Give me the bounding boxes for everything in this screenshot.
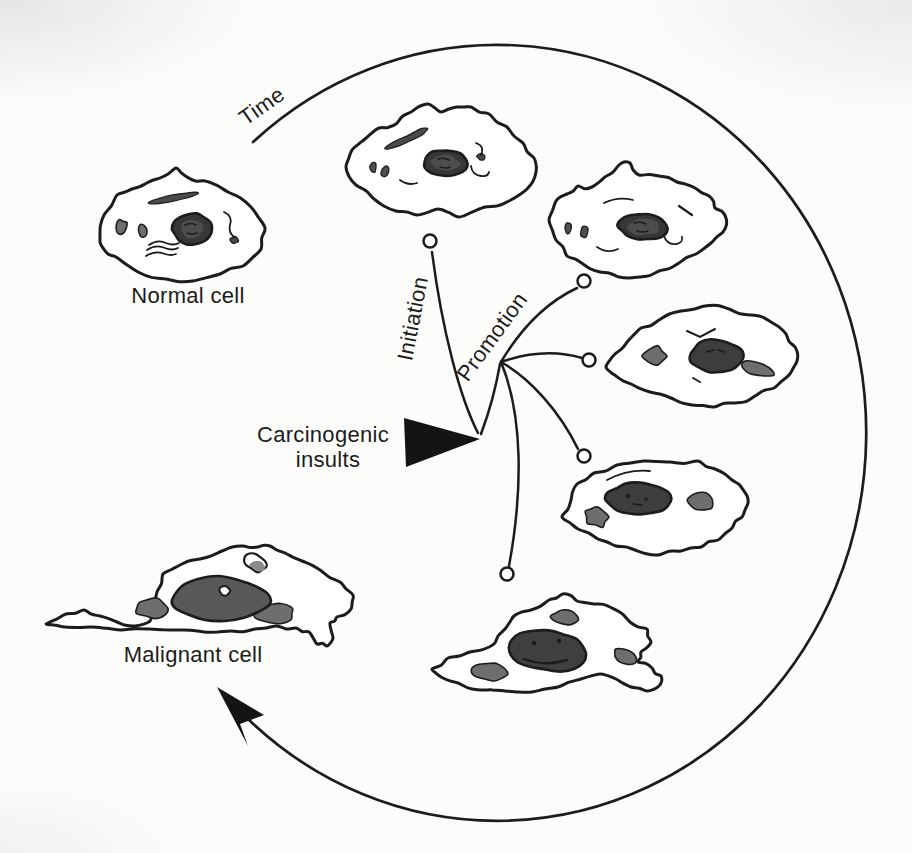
promotion-stem-curve — [481, 364, 500, 434]
promotion-curve-4 — [501, 362, 519, 566]
promotion-node-3 — [578, 450, 591, 463]
promotion-node-2 — [583, 354, 596, 367]
cell-malignant — [46, 545, 353, 646]
normal-cell-label: Normal cell — [131, 283, 244, 308]
carcinogenesis-diagram: Time Initiation Promotion Carcinogenic i… — [0, 0, 912, 853]
cell-promoted-1 — [549, 162, 727, 278]
promotion-curve-2 — [501, 353, 582, 362]
carcinogenesis-figure: Time Initiation Promotion Carcinogenic i… — [0, 0, 912, 853]
cell-promoted-3 — [562, 461, 748, 555]
carcinogenic-insults-label-line2: insults — [296, 447, 360, 472]
cell-organelle — [565, 223, 572, 234]
promotion-label: Promotion — [452, 288, 533, 386]
cell-normal — [100, 168, 265, 282]
time-label: Time — [234, 81, 289, 130]
cell-promoted-2 — [606, 305, 798, 407]
cell-nucleolus-dot — [644, 497, 648, 501]
initiation-node — [424, 235, 437, 248]
cell-organelle — [370, 162, 376, 172]
cell-organelle — [581, 226, 588, 238]
cell-initiated — [346, 104, 536, 217]
initiation-label: Initiation — [392, 274, 433, 362]
carcinogenic-insults-arrowhead — [404, 418, 480, 467]
cell-nucleolus-dot — [532, 641, 536, 645]
cell-detail-line — [633, 504, 642, 505]
malignant-cell-label: Malignant cell — [124, 642, 263, 667]
cell-nucleolus-dot — [626, 494, 630, 498]
cell-organelle — [138, 224, 147, 237]
cell-nucleolus-dot — [557, 639, 561, 643]
carcinogenic-insults-label-line1: Carcinogenic — [257, 422, 389, 447]
promotion-node-4 — [501, 568, 514, 581]
cell-nucleolus — [219, 586, 230, 596]
cell-premalignant — [432, 594, 662, 692]
time-arrowhead — [217, 687, 264, 746]
promotion-node-1 — [578, 275, 591, 288]
